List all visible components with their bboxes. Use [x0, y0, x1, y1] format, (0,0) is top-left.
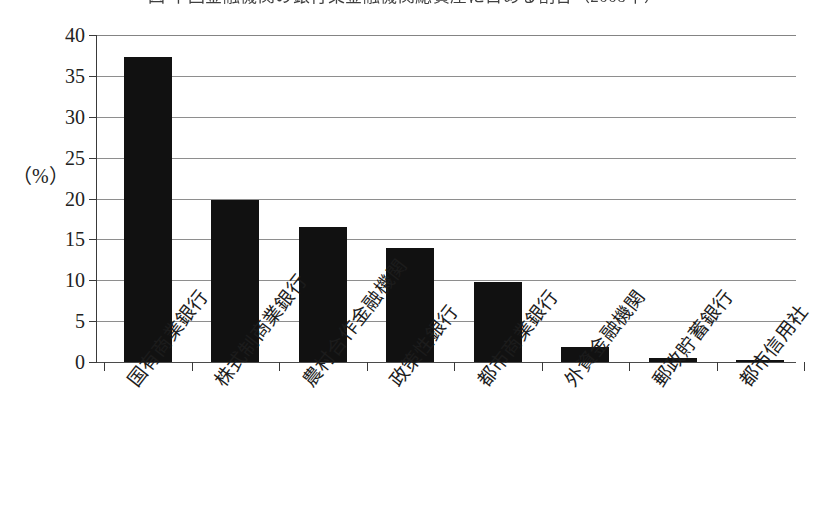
gridline: [96, 199, 796, 200]
x-axis-tick: [804, 362, 805, 371]
y-axis-tick: [89, 117, 97, 118]
y-axis-tick: [89, 280, 97, 281]
y-axis-tick-label: 0: [75, 352, 85, 372]
y-axis-tick: [89, 239, 97, 240]
x-axis-tick: [367, 362, 368, 371]
x-axis-tick: [104, 362, 105, 371]
gridline: [96, 239, 796, 240]
y-axis-unit-label: （%）: [12, 166, 69, 186]
y-axis-tick: [89, 362, 97, 363]
y-axis-tick: [89, 35, 97, 36]
y-axis-tick-label: 30: [65, 107, 85, 127]
bar: [124, 57, 172, 362]
gridline: [96, 76, 796, 77]
y-axis-tick: [89, 76, 97, 77]
y-axis-tick-label: 20: [65, 189, 85, 209]
y-axis-tick: [89, 321, 97, 322]
x-axis-tick: [629, 362, 630, 371]
bar-chart: 0510152025303540 （%） 国有商業銀行株式制商業銀行農村合作金融…: [0, 0, 813, 527]
x-axis-tick: [192, 362, 193, 371]
y-axis-tick-label: 5: [75, 311, 85, 331]
gridline: [96, 117, 796, 118]
x-axis-tick: [454, 362, 455, 371]
x-axis-tick: [279, 362, 280, 371]
y-axis-tick: [89, 158, 97, 159]
y-axis-tick: [89, 199, 97, 200]
gridline: [96, 280, 796, 281]
y-axis-tick-label: 35: [65, 66, 85, 86]
gridline: [96, 362, 796, 363]
x-axis-tick: [717, 362, 718, 371]
y-axis-tick-label: 15: [65, 229, 85, 249]
gridline: [96, 35, 796, 36]
x-axis-tick: [542, 362, 543, 371]
gridline: [96, 158, 796, 159]
y-axis-tick-label: 40: [65, 25, 85, 45]
y-axis-tick-label: 10: [65, 270, 85, 290]
